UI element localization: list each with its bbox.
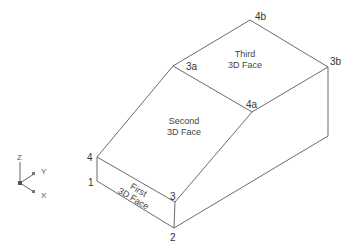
ucs-axis-icon: Z Y X xyxy=(17,153,47,200)
third-face-label-line1: Third xyxy=(235,49,256,59)
3d-faces-diagram: 4b 3b 3a 4a 4 1 3 2 Third 3D Face Second… xyxy=(0,0,357,251)
y-arrow-icon xyxy=(32,172,35,175)
origin-marker xyxy=(18,181,22,185)
bottom-right-edge xyxy=(174,136,328,228)
second-face-label-line1: Second xyxy=(169,116,200,126)
vertex-label-4a: 4a xyxy=(246,99,258,110)
y-axis-line xyxy=(20,174,34,183)
z-axis-label: Z xyxy=(17,153,22,162)
vertex-label-4b: 4b xyxy=(255,11,267,22)
vertex-label-2: 2 xyxy=(170,232,176,243)
vertex-labels: 4b 3b 3a 4a 4 1 3 2 xyxy=(87,11,342,243)
x-axis-label: X xyxy=(41,191,47,200)
vertex-label-1: 1 xyxy=(88,177,94,188)
x-arrow-icon xyxy=(32,190,35,193)
x-axis-line xyxy=(20,183,34,192)
third-face-label-line2: 3D Face xyxy=(228,60,262,70)
vertex-label-3: 3 xyxy=(170,191,176,202)
vertex-label-3a: 3a xyxy=(186,61,198,72)
y-axis-label: Y xyxy=(41,167,47,176)
second-face-label-line2: 3D Face xyxy=(167,127,201,137)
vertex-label-3b: 3b xyxy=(330,56,342,67)
face-labels: Third 3D Face Second 3D Face First 3D Fa… xyxy=(116,49,262,212)
vertex-label-4: 4 xyxy=(87,152,93,163)
